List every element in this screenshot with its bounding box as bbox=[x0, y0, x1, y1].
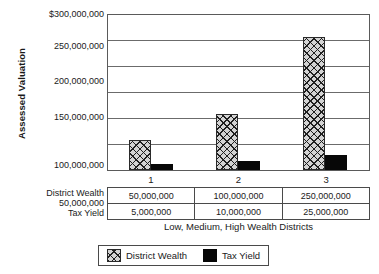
plot-area bbox=[107, 14, 370, 171]
bar-chart: Assessed Valuation $300,000,000 250,000,… bbox=[0, 0, 379, 274]
x-axis-title: Low, Medium, High Wealth Districts bbox=[107, 221, 370, 232]
row-label-tax-yield: Tax Yield bbox=[0, 208, 104, 218]
data-table-row-labels: District Wealth Tax Yield bbox=[0, 0, 104, 274]
bar-tax-yield-2 bbox=[238, 161, 260, 170]
x-axis-category-labels: 1 2 3 bbox=[107, 173, 370, 187]
gridline-2 bbox=[108, 66, 369, 67]
bar-district-wealth-2 bbox=[216, 114, 238, 170]
cell-district-wealth-2: 100,000,000 bbox=[195, 188, 282, 204]
bar-tax-yield-1 bbox=[151, 164, 173, 170]
chart-legend: District Wealth Tax Yield bbox=[98, 245, 269, 266]
x-cat-1: 1 bbox=[107, 173, 195, 187]
legend-swatch-solid-icon bbox=[203, 249, 217, 262]
legend-label-tax-yield: Tax Yield bbox=[222, 250, 260, 261]
table-row: 50,000,000 100,000,000 250,000,000 bbox=[108, 188, 370, 204]
data-table: 50,000,000 100,000,000 250,000,000 5,000… bbox=[107, 187, 370, 220]
gridline-4 bbox=[108, 118, 369, 119]
cell-tax-yield-1: 5,000,000 bbox=[108, 204, 195, 220]
legend-item-tax-yield: Tax Yield bbox=[203, 249, 260, 262]
gridline-3 bbox=[108, 92, 369, 93]
legend-swatch-crosshatch-icon bbox=[107, 249, 121, 262]
cell-district-wealth-1: 50,000,000 bbox=[108, 188, 195, 204]
gridline-1 bbox=[108, 40, 369, 41]
x-cat-2: 2 bbox=[195, 173, 283, 187]
bar-district-wealth-1 bbox=[129, 140, 151, 170]
table-row: 5,000,000 10,000,000 25,000,000 bbox=[108, 204, 370, 220]
legend-label-district-wealth: District Wealth bbox=[126, 250, 187, 261]
row-label-district-wealth: District Wealth bbox=[0, 188, 104, 198]
bar-tax-yield-3 bbox=[325, 155, 347, 170]
cell-tax-yield-2: 10,000,000 bbox=[195, 204, 282, 220]
bar-district-wealth-3 bbox=[303, 37, 325, 170]
cell-district-wealth-3: 250,000,000 bbox=[282, 188, 369, 204]
x-cat-3: 3 bbox=[282, 173, 370, 187]
legend-item-district-wealth: District Wealth bbox=[107, 249, 187, 262]
cell-tax-yield-3: 25,000,000 bbox=[282, 204, 369, 220]
